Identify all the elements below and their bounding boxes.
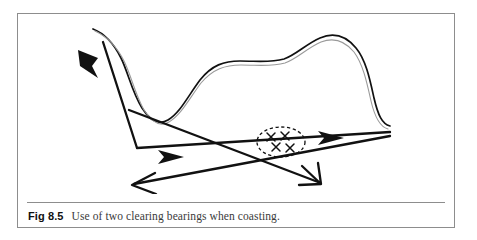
rocks-hazard-area [257,127,305,157]
coastal-navigation-diagram [18,14,454,194]
rock-mark-4 [286,144,294,152]
bearing-2-arrowhead [132,173,156,194]
diagram-canvas [18,14,454,194]
clearing-bearing-2 [132,136,390,194]
figure-caption: Fig 8.5Use of two clearing bearings when… [28,208,448,228]
track-arrowhead-upleft [78,50,98,78]
figure-number-label: Fig 8.5 [28,210,64,222]
rock-mark-3 [272,143,280,151]
bearing-1-arrowhead [299,163,321,185]
track-arrowhead-midright [158,150,184,164]
caption-separator-rule [27,202,445,203]
figure-caption-text: Use of two clearing bearings when coasti… [72,210,280,222]
track-arrowhead-rightward [318,131,344,145]
track-segment-lower [137,132,390,148]
figure-root: Fig 8.5Use of two clearing bearings when… [0,0,477,240]
hazard-rock-marks [267,132,294,152]
